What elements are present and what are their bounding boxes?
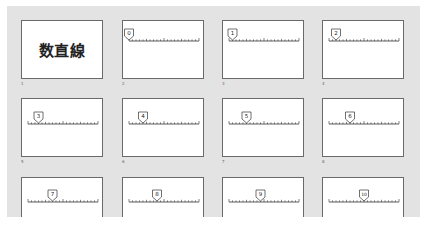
value-marker-icon[interactable]: 10	[360, 190, 369, 201]
slide-thumbnail[interactable]: 1	[222, 20, 304, 79]
svg-text:0: 0	[127, 30, 131, 36]
svg-text:3: 3	[37, 113, 41, 119]
number-line: 2	[323, 21, 403, 78]
svg-text:2: 2	[334, 30, 338, 36]
slide-number: 2	[122, 82, 125, 86]
value-marker-icon[interactable]: 9	[256, 190, 265, 201]
slide-number: 5	[21, 160, 24, 164]
svg-text:8: 8	[155, 191, 159, 197]
slide-thumbnail[interactable]: 4	[122, 98, 204, 157]
slide-sorter-pane: 数直線102132435465768798109111012	[7, 6, 420, 217]
slide-number: 8	[322, 160, 325, 164]
slide-thumbnail[interactable]: 0	[122, 20, 204, 79]
value-marker-icon[interactable]: 1	[228, 29, 237, 40]
slide-thumbnail[interactable]: 数直線	[21, 20, 103, 79]
value-marker-icon[interactable]: 3	[34, 112, 43, 123]
number-line: 4	[123, 99, 203, 156]
number-line: 3	[22, 99, 102, 156]
value-marker-icon[interactable]: 0	[125, 29, 134, 40]
slide-thumbnail[interactable]: 5	[222, 98, 304, 157]
number-line: 5	[223, 99, 303, 156]
svg-text:5: 5	[245, 113, 249, 119]
value-marker-icon[interactable]: 7	[48, 190, 57, 201]
value-marker-icon[interactable]: 5	[242, 112, 251, 123]
value-marker-icon[interactable]: 2	[332, 29, 341, 40]
slide-thumbnail[interactable]: 3	[21, 98, 103, 157]
slide-number: 3	[222, 82, 225, 86]
svg-text:7: 7	[51, 191, 55, 197]
number-line: 0	[123, 21, 203, 78]
svg-text:1: 1	[231, 30, 235, 36]
svg-text:4: 4	[141, 113, 145, 119]
svg-text:9: 9	[259, 191, 263, 197]
slide-title: 数直線	[22, 39, 102, 60]
slide-number: 1	[21, 82, 24, 86]
value-marker-icon[interactable]: 8	[153, 190, 162, 201]
bottom-edge	[0, 217, 426, 226]
value-marker-icon[interactable]: 6	[346, 112, 355, 123]
slide-thumbnail[interactable]: 2	[322, 20, 404, 79]
slide-number: 4	[322, 82, 325, 86]
slide-number: 7	[222, 160, 225, 164]
value-marker-icon[interactable]: 4	[139, 112, 148, 123]
slide-thumbnail[interactable]: 6	[322, 98, 404, 157]
svg-text:10: 10	[361, 192, 367, 197]
number-line: 6	[323, 99, 403, 156]
number-line: 1	[223, 21, 303, 78]
svg-text:6: 6	[348, 113, 352, 119]
slide-number: 6	[122, 160, 125, 164]
